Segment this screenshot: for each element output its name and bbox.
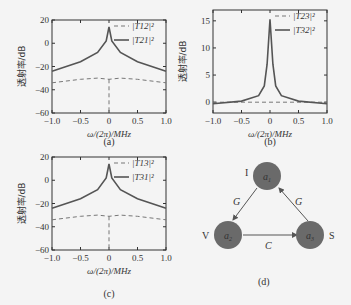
x-axis-label: ω/(2π)/MHz: [87, 266, 131, 276]
x-tick-label: 1.0: [321, 116, 333, 126]
chart-panel-c: −1.0−0.500.51.0200−20−40−60|T13|²|T31|²ω…: [16, 152, 172, 300]
edge-a3-a1: [279, 188, 308, 221]
x-tick-label: −0.5: [72, 253, 89, 263]
x-tick-label: 0: [107, 253, 112, 263]
y-tick-label: −60: [35, 245, 50, 255]
legend-label: |T21|²: [132, 35, 154, 45]
y-tick-label: 20: [40, 15, 50, 25]
y-tick-label: −40: [35, 222, 50, 232]
y-tick-label: 0: [45, 38, 50, 48]
legend-label: |T13|²: [132, 158, 154, 168]
y-tick-label: 20: [40, 152, 50, 162]
diagram-d: a1 a2 a3 I V S G C G (d): [202, 162, 335, 288]
x-tick-label: 0: [268, 116, 273, 126]
x-tick-label: 0: [107, 116, 112, 126]
x-tick-label: 1.0: [160, 253, 172, 263]
edge-a1-a2-label: G: [233, 196, 240, 207]
x-tick-label: 1.0: [160, 116, 172, 126]
x-tick-label: 0.5: [132, 116, 144, 126]
x-tick-label: −0.5: [72, 116, 89, 126]
chart-panel-a: −1.0−0.500.51.0200−20−40−60|T12|²|T21|²ω…: [16, 15, 172, 148]
y-tick-label: −20: [35, 199, 50, 209]
y-tick-label: −60: [35, 108, 50, 118]
caption-a: (a): [103, 136, 114, 148]
node-a3-side-label: S: [329, 230, 335, 241]
caption-b: (b): [264, 136, 276, 148]
y-axis-label: 透射率/dB: [16, 46, 27, 88]
node-a2-side-label: V: [202, 230, 210, 241]
y-tick-label: −20: [35, 62, 50, 72]
x-tick-label: −0.5: [233, 116, 250, 126]
figure: −1.0−0.500.51.0200−20−40−60|T12|²|T21|²ω…: [0, 0, 351, 305]
series-line-1: [52, 27, 166, 71]
legend-label: |T12|²: [132, 21, 154, 31]
edge-a3-a1-label: G: [295, 196, 302, 207]
y-tick-label: 5: [206, 70, 211, 80]
y-tick-label: 10: [201, 43, 211, 53]
y-tick-label: −40: [35, 85, 50, 95]
series-line-1: [52, 164, 166, 208]
y-axis-label: 透射率/dB: [177, 41, 188, 83]
plot-frame: [52, 20, 166, 113]
y-tick-label: 15: [201, 16, 211, 26]
node-a1-side-label: I: [245, 167, 248, 178]
x-tick-label: 0.5: [293, 116, 305, 126]
plot-frame: [52, 157, 166, 250]
chart-panel-b: −1.0−0.500.51.0151050|T23|²|T32|²ω/(2π)/…: [177, 10, 333, 148]
x-tick-label: −1.0: [205, 116, 222, 126]
y-tick-label: 0: [206, 97, 211, 107]
x-tick-label: 0.5: [132, 253, 144, 263]
caption-d: (d): [258, 276, 270, 288]
edge-a2-a3-label: C: [265, 240, 272, 251]
caption-c: (c): [103, 288, 114, 300]
legend-label: |T32|²: [293, 25, 315, 35]
legend-label: |T31|²: [132, 172, 154, 182]
legend-label: |T23|²: [293, 11, 315, 21]
y-axis-label: 透射率/dB: [16, 183, 27, 225]
y-tick-label: 0: [45, 175, 50, 185]
